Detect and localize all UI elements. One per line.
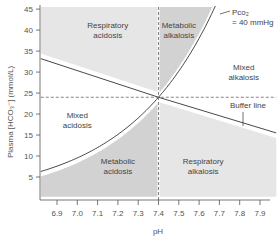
x-tick-label: 7.6 — [194, 209, 206, 218]
x-tick-label: 7.8 — [234, 209, 246, 218]
x-tick-label: 6.9 — [51, 209, 63, 218]
x-tick-label: 7.1 — [92, 209, 104, 218]
region-respiratory-acidosis — [41, 7, 159, 92]
region-label-respiratory-acidosis: Respiratory — [87, 21, 128, 30]
annotation-pco2-line2: = 40 mmHg — [232, 18, 274, 27]
x-tick-label: 7.5 — [173, 209, 185, 218]
acid-base-chart: 510152025303540456.97.07.17.27.37.47.57.… — [0, 0, 279, 241]
y-tick-label: 45 — [24, 5, 33, 14]
y-tick-label: 35 — [24, 47, 33, 56]
x-tick-label: 7.3 — [133, 209, 145, 218]
annotation-pco2-leader — [220, 11, 230, 14]
x-tick-label: 7.7 — [214, 209, 226, 218]
region-label-metabolic-alkalosis-line2: alkalosis — [163, 31, 194, 40]
region-label-respiratory-acidosis-line2: acidosis — [93, 31, 122, 40]
region-label-metabolic-acidosis: Metabolic — [101, 157, 135, 166]
region-label-mixed-alkalosis-line2: alkalosis — [228, 73, 259, 82]
region-metabolic-alkalosis — [158, 6, 213, 94]
y-tick-label: 5 — [29, 173, 34, 182]
region-label-mixed-alkalosis: Mixed — [233, 63, 254, 72]
region-label-metabolic-alkalosis: Metabolic — [162, 21, 196, 30]
x-tick-label: 7.2 — [112, 209, 124, 218]
y-axis-title: Plasma [HCO₃⁻] (mmol/L) — [6, 66, 15, 158]
y-tick-label: 10 — [24, 152, 33, 161]
region-label-respiratory-alkalosis: Respiratory — [183, 157, 224, 166]
x-axis-title: pH — [153, 227, 163, 236]
annotation-pco2: Pco₂ — [232, 8, 249, 17]
y-tick-label: 30 — [24, 68, 33, 77]
region-label-metabolic-acidosis-line2: acidosis — [103, 167, 132, 176]
y-tick-label: 40 — [24, 26, 33, 35]
y-tick-label: 15 — [24, 131, 33, 140]
region-respiratory-alkalosis — [160, 102, 277, 196]
region-metabolic-acidosis — [41, 102, 159, 196]
annotation-buffer-line: Buffer line — [230, 101, 266, 110]
region-label-respiratory-alkalosis-line2: alkalosis — [188, 167, 219, 176]
region-label-mixed-acidosis-line2: acidosis — [63, 121, 92, 130]
x-tick-label: 7.0 — [72, 209, 84, 218]
y-tick-label: 25 — [24, 89, 33, 98]
y-tick-label: 20 — [24, 110, 33, 119]
region-label-mixed-acidosis: Mixed — [67, 111, 88, 120]
x-tick-label: 7.4 — [153, 209, 165, 218]
x-tick-label: 7.9 — [254, 209, 266, 218]
